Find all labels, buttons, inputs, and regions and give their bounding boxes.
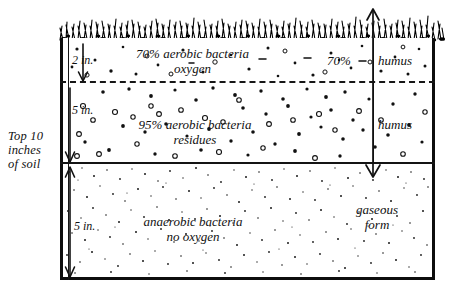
humus-label-upper: humus — [378, 54, 412, 69]
side-label-top-10-inches: Top 10 inches of soil — [8, 129, 64, 171]
layer-label-aerobic-oxygen: 70% aerobic bacteria oxygen — [110, 47, 275, 76]
layer-label-aerobic-residues: 95% aerobic bacteria residues — [110, 118, 280, 147]
depth-label-5in-upper: 5 in. — [72, 104, 93, 117]
gaseous-form-label: gaseous form — [347, 203, 407, 232]
depth-label-5in-lower: 5 in. — [74, 220, 95, 233]
humus-label-lower: humus — [378, 118, 412, 133]
depth-label-2in: 2 in. — [72, 54, 93, 67]
layer-label-anaerobic: anaerobic bacteria no oxygen — [113, 215, 273, 244]
soil-profile-diagram: Top 10 inches of soil 2 in. 5 in. 5 in. … — [0, 0, 453, 293]
humus-percent-label: 70% — [327, 54, 351, 69]
